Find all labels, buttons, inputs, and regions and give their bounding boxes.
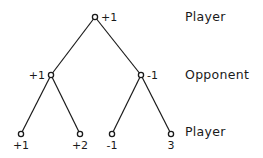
- node-values: +1+1-1+1+2-13: [13, 11, 175, 152]
- tree-node-leaf2: [77, 131, 82, 136]
- tree-node-leaf1: [18, 131, 23, 136]
- level-label-player-top: Player: [185, 9, 226, 24]
- tree-node-right: [138, 72, 143, 77]
- level-label-opponent: Opponent: [185, 67, 249, 82]
- tree-edge-left-leaf1: [21, 75, 51, 134]
- node-value-leaf1: +1: [13, 139, 29, 152]
- node-value-leaf2: +2: [72, 139, 88, 152]
- level-labels: Player Opponent Player: [185, 9, 249, 139]
- tree-edge-right-leaf3: [112, 75, 141, 134]
- node-value-root: +1: [101, 11, 117, 24]
- level-label-player-bottom: Player: [185, 124, 226, 139]
- tree-node-root: [92, 14, 97, 19]
- tree-edge-left-leaf2: [51, 75, 80, 134]
- game-tree-diagram: +1+1-1+1+2-13 Player Opponent Player: [0, 0, 263, 158]
- tree-edge-root-right: [95, 17, 141, 75]
- tree-node-left: [48, 72, 53, 77]
- node-value-right: -1: [147, 69, 158, 82]
- node-value-leaf3: -1: [107, 139, 118, 152]
- tree-edge-right-leaf4: [141, 75, 171, 134]
- tree-edge-root-left: [51, 17, 95, 75]
- tree-node-leaf4: [168, 131, 173, 136]
- tree-node-leaf3: [109, 131, 114, 136]
- node-value-leaf4: 3: [168, 139, 175, 152]
- node-value-left: +1: [29, 69, 45, 82]
